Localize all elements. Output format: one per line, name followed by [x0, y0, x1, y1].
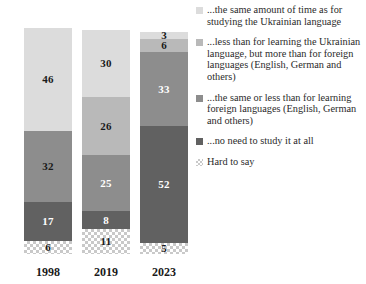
legend-swatch-icon — [196, 95, 203, 102]
bar-stack: 302625811 — [82, 30, 130, 254]
x-axis-label-1998: 1998 — [24, 265, 72, 280]
segment-value-label: 30 — [100, 58, 111, 69]
legend-item-4[interactable]: Hard to say — [196, 156, 366, 168]
bar-segment: 5 — [140, 243, 188, 254]
bar-stack: 3633525 — [140, 32, 188, 254]
legend-label: ...the same or less than for learning fo… — [207, 92, 366, 127]
segment-value-label: 52 — [158, 179, 169, 190]
bar-stack: 4632176 — [24, 28, 72, 254]
bar-segment: 26 — [82, 97, 130, 155]
legend-item-1[interactable]: ...less than for learning the Ukrainian … — [196, 36, 366, 82]
segment-value-label: 33 — [158, 84, 169, 95]
segment-value-label: 6 — [45, 242, 51, 253]
plot-area: 46321761998302625811201936335252023 — [0, 0, 196, 284]
legend-item-3[interactable]: ...no need to study it at all — [196, 135, 366, 147]
bar-segment: 6 — [140, 39, 188, 52]
legend-label: ...no need to study it at all — [207, 135, 366, 147]
bar-segment: 3 — [140, 32, 188, 39]
bar-group-2023: 3633525 — [140, 32, 188, 254]
bar-segment: 30 — [82, 30, 130, 97]
legend-label: ...less than for learning the Ukrainian … — [207, 36, 366, 82]
segment-value-label: 11 — [101, 236, 112, 247]
bar-group-1998: 4632176 — [24, 28, 72, 254]
bar-segment: 33 — [140, 52, 188, 126]
legend-item-2[interactable]: ...the same or less than for learning fo… — [196, 92, 366, 127]
bar-segment: 6 — [24, 241, 72, 254]
x-axis-label-2023: 2023 — [140, 265, 188, 280]
legend-item-0[interactable]: ...the same amount of time as for studyi… — [196, 4, 366, 27]
bar-segment: 32 — [24, 131, 72, 203]
segment-value-label: 46 — [42, 74, 53, 85]
legend-label: ...the same amount of time as for studyi… — [207, 4, 366, 27]
segment-value-label: 6 — [161, 40, 167, 51]
legend-swatch-icon — [196, 159, 203, 166]
bar-segment: 11 — [82, 229, 130, 254]
bar-group-2019: 302625811 — [82, 30, 130, 254]
segment-value-label: 25 — [100, 178, 111, 189]
segment-value-label: 32 — [42, 161, 53, 172]
legend-swatch-icon — [196, 7, 203, 14]
legend-swatch-icon — [196, 39, 203, 46]
legend-label: Hard to say — [207, 156, 366, 168]
bar-segment: 17 — [24, 202, 72, 240]
bar-segment: 25 — [82, 155, 130, 211]
stacked-bar-chart: 46321761998302625811201936335252023 ...t… — [0, 0, 366, 284]
segment-value-label: 17 — [42, 216, 53, 227]
segment-value-label: 5 — [161, 243, 167, 254]
bar-segment: 52 — [140, 126, 188, 242]
bar-segment: 46 — [24, 28, 72, 131]
chart-legend: ...the same amount of time as for studyi… — [196, 4, 366, 204]
legend-swatch-icon — [196, 138, 203, 145]
bar-segment: 8 — [82, 211, 130, 229]
x-axis-label-2019: 2019 — [82, 265, 130, 280]
segment-value-label: 8 — [103, 215, 109, 226]
segment-value-label: 26 — [100, 121, 111, 132]
